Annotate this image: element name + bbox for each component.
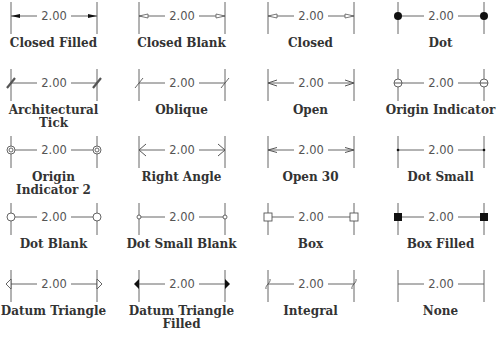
arrowhead-label: None: [378, 305, 500, 318]
arrowhead-label-line: Dot: [378, 37, 500, 50]
arrowhead-label-line: None: [378, 305, 500, 318]
arrowhead-sample-closed-filled: 2.00Closed Filled: [0, 0, 125, 67]
arrowhead-label-line: Origin Indicator: [378, 104, 500, 117]
arrowhead-label-line: Dot Small Blank: [119, 238, 244, 251]
dot-blank-arrowhead-icon: 2.00: [0, 201, 125, 268]
dot-small-arrowhead-icon: 2.00: [387, 134, 500, 201]
dimension-value: 2.00: [298, 143, 324, 157]
arrowhead-label-line: Box Filled: [378, 238, 500, 251]
arrowhead-label-line: Closed: [248, 37, 373, 50]
dimension-value: 2.00: [41, 143, 67, 157]
arrowhead-sample-box-filled: 2.00Box Filled: [387, 201, 500, 268]
dimension-value: 2.00: [428, 9, 454, 23]
arrowhead-label: Closed Filled: [0, 37, 116, 50]
arrowhead-label: Origin Indicator: [378, 104, 500, 117]
arrowhead-label-line: Indicator 2: [0, 184, 116, 197]
closed-blank-arrowhead-icon: 2.00: [128, 0, 253, 67]
arrowhead-sample-dot-small-blank: 2.00Dot Small Blank: [128, 201, 253, 268]
arrowhead-sample-integral: 2.00Integral: [257, 268, 382, 335]
arrowhead-sample-open: 2.00Open: [257, 67, 382, 134]
arrowhead-sample-none: 2.00None: [387, 268, 500, 335]
arrowhead-label: Dot Small: [378, 171, 500, 184]
arrowhead-label: Closed: [248, 37, 373, 50]
arrowhead-label: Box Filled: [378, 238, 500, 251]
arrowhead-sample-oblique: 2.00Oblique: [128, 67, 253, 134]
dimension-value: 2.00: [298, 277, 324, 291]
oblique-arrowhead-icon: 2.00: [128, 67, 253, 134]
arrowhead-sample-dot-blank: 2.00Dot Blank: [0, 201, 125, 268]
dimension-value: 2.00: [41, 210, 67, 224]
dimension-value: 2.00: [298, 210, 324, 224]
arrowhead-label-line: Dot Small: [378, 171, 500, 184]
dimension-value: 2.00: [41, 9, 67, 23]
dimension-value: 2.00: [169, 9, 195, 23]
dimension-value: 2.00: [298, 76, 324, 90]
dot-small-blank-arrowhead-icon: 2.00: [128, 201, 253, 268]
arrowhead-label-line: Open 30: [248, 171, 373, 184]
datum-triangle-arrowhead-icon: 2.00: [0, 268, 125, 335]
arrowhead-label: Open: [248, 104, 373, 117]
arrowhead-sample-box: 2.00Box: [257, 201, 382, 268]
arrowhead-label-line: Datum Triangle: [0, 305, 116, 318]
arrowhead-sample-dot: 2.00Dot: [387, 0, 500, 67]
arrowhead-label: Closed Blank: [119, 37, 244, 50]
dimension-value: 2.00: [169, 143, 195, 157]
box-arrowhead-icon: 2.00: [257, 201, 382, 268]
arrowhead-label-line: Box: [248, 238, 373, 251]
arrowhead-sample-dot-small: 2.00Dot Small: [387, 134, 500, 201]
right-angle-arrowhead-icon: 2.00: [128, 134, 253, 201]
dimension-value: 2.00: [428, 277, 454, 291]
arrowhead-sample-closed-blank: 2.00Closed Blank: [128, 0, 253, 67]
arrowhead-label-line: Integral: [248, 305, 373, 318]
dimension-value: 2.00: [41, 76, 67, 90]
dimension-value: 2.00: [428, 143, 454, 157]
arrowhead-label-line: Right Angle: [119, 171, 244, 184]
arrowhead-label-line: Tick: [0, 117, 116, 130]
arrowhead-label: Dot Blank: [0, 238, 116, 251]
arrowhead-label: OriginIndicator 2: [0, 171, 116, 197]
origin-indicator-arrowhead-icon: 2.00: [387, 67, 500, 134]
open-arrowhead-icon: 2.00: [257, 67, 382, 134]
arrowhead-sample-right-angle: 2.00Right Angle: [128, 134, 253, 201]
arrowhead-sample-datum-triangle-filled: 2.00Datum TriangleFilled: [128, 268, 253, 335]
arrowhead-label-line: Oblique: [119, 104, 244, 117]
arrowhead-label-line: Closed Blank: [119, 37, 244, 50]
arrowhead-label: Right Angle: [119, 171, 244, 184]
arrowhead-label: Datum TriangleFilled: [119, 305, 244, 331]
dimension-value: 2.00: [428, 76, 454, 90]
arrowhead-label: Dot Small Blank: [119, 238, 244, 251]
arrowhead-label-line: Closed Filled: [0, 37, 116, 50]
arrowhead-sample-origin-indicator: 2.00Origin Indicator: [387, 67, 500, 134]
closed-arrowhead-icon: 2.00: [257, 0, 382, 67]
arrowhead-label-line: Open: [248, 104, 373, 117]
none-arrowhead-icon: 2.00: [387, 268, 500, 335]
dimension-value: 2.00: [298, 9, 324, 23]
arrowhead-sample-origin-indicator-2: 2.00OriginIndicator 2: [0, 134, 125, 201]
dot-arrowhead-icon: 2.00: [387, 0, 500, 67]
dimension-value: 2.00: [169, 277, 195, 291]
box-filled-arrowhead-icon: 2.00: [387, 201, 500, 268]
open-30-arrowhead-icon: 2.00: [257, 134, 382, 201]
dimension-value: 2.00: [169, 76, 195, 90]
arrowhead-label: Integral: [248, 305, 373, 318]
arrowhead-sample-architectural-tick: 2.00ArchitecturalTick: [0, 67, 125, 134]
closed-filled-arrowhead-icon: 2.00: [0, 0, 125, 67]
arrowhead-label: Box: [248, 238, 373, 251]
dimension-value: 2.00: [41, 277, 67, 291]
integral-arrowhead-icon: 2.00: [257, 268, 382, 335]
arrowhead-label: Oblique: [119, 104, 244, 117]
arrowhead-label: Open 30: [248, 171, 373, 184]
arrowhead-sample-datum-triangle: 2.00Datum Triangle: [0, 268, 125, 335]
arrowhead-label: ArchitecturalTick: [0, 104, 116, 130]
arrowhead-sample-open-30: 2.00Open 30: [257, 134, 382, 201]
arrowhead-label-line: Filled: [119, 318, 244, 331]
arrowhead-label: Datum Triangle: [0, 305, 116, 318]
arrowhead-types-diagram: 2.00Closed Filled2.00Closed Blank2.00Clo…: [0, 0, 500, 346]
dimension-value: 2.00: [169, 210, 195, 224]
arrowhead-label: Dot: [378, 37, 500, 50]
arrowhead-label-line: Dot Blank: [0, 238, 116, 251]
arrowhead-sample-closed: 2.00Closed: [257, 0, 382, 67]
dimension-value: 2.00: [428, 210, 454, 224]
